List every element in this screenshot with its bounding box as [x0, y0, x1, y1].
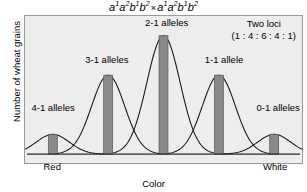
two-loci-title: Two loci	[232, 18, 296, 30]
x-axis-label: Color	[0, 178, 307, 189]
x-tick-white: White	[263, 161, 287, 172]
bar	[48, 134, 57, 154]
bar	[104, 75, 113, 154]
peak-label-1-1-allele: 1-1 allele	[205, 54, 244, 65]
plot-area: Two loci (1 : 4 : 6 : 4 : 1) 4-1 alleles…	[24, 15, 303, 164]
genetics-distribution-figure: a1a2b1b2×a1a2b1b2 Number of wheat grains…	[0, 0, 307, 192]
two-loci-annotation: Two loci (1 : 4 : 6 : 4 : 1)	[232, 18, 296, 42]
bar	[214, 75, 223, 154]
x-tick-red: Red	[44, 161, 61, 172]
peak-label-2-1-alleles: 2-1 alleles	[145, 17, 188, 28]
bar	[270, 134, 279, 154]
peak-label-3-1-alleles: 3-1 alleles	[85, 54, 128, 65]
peak-label-0-1-alleles: 0-1 alleles	[257, 102, 300, 113]
chart-title: a1a2b1b2×a1a2b1b2	[0, 1, 307, 13]
two-loci-ratio: (1 : 4 : 6 : 4 : 1)	[232, 30, 296, 42]
peak-label-4-1-alleles: 4-1 alleles	[32, 102, 75, 113]
bar	[159, 36, 168, 154]
title-sup-8: 2	[194, 0, 198, 7]
y-axis-label: Number of wheat grains	[11, 2, 22, 142]
